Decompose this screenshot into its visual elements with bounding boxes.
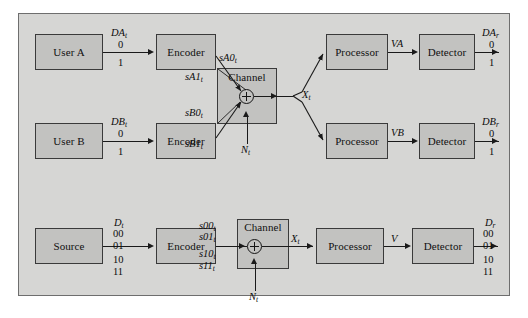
label-da-r: DAr: [482, 27, 499, 38]
label-sb0-text: sB0: [185, 107, 201, 118]
wire-processorb-detectorb: [388, 141, 413, 142]
block-source: Source: [35, 228, 103, 264]
label-s10: s10t: [199, 248, 216, 259]
label-sb1: sB1t: [185, 138, 203, 149]
label-in-b-0: 0: [118, 128, 123, 139]
label-db-r: DBr: [482, 116, 499, 127]
label-d-r-text: D: [485, 217, 493, 228]
label-sa0-sub: t: [235, 56, 237, 65]
label-d-r: Dr: [485, 217, 496, 228]
label-db-t: DBt: [111, 116, 127, 127]
label-d-t-text: D: [114, 217, 122, 228]
label-out-b-1: 1: [489, 146, 494, 157]
label-s01-text: s01: [199, 231, 214, 242]
label-x-t-top-sub: t: [308, 93, 310, 102]
label-out-00: 00: [483, 228, 494, 239]
label-da-t-text: DA: [111, 27, 125, 38]
label-da-r-sub: r: [496, 31, 499, 40]
arrowhead-userb-encoderb: [148, 138, 154, 144]
arrowhead-noise-bottom: [251, 258, 257, 264]
label-out-a-1: 1: [489, 57, 494, 68]
label-in-10: 10: [113, 254, 124, 265]
label-sa1-sub: t: [201, 75, 203, 84]
label-out-a-0: 0: [489, 39, 494, 50]
label-s00-text: s00: [199, 220, 214, 231]
label-sb1-text: sB1: [185, 138, 201, 149]
block-detector-a: Detector: [419, 34, 475, 70]
label-sa0: sA0t: [219, 52, 237, 63]
block-processor-b: Processor: [326, 123, 388, 159]
label-d-t: Dt: [114, 217, 124, 228]
label-sa0-text: sA0: [219, 52, 235, 63]
label-noise-top: Nt: [241, 144, 250, 155]
label-noise-bottom-text: N: [249, 291, 256, 302]
block-detector-b: Detector: [419, 123, 475, 159]
block-processor-a: Processor: [326, 34, 388, 70]
arrowhead-noise-top: [243, 111, 249, 117]
block-channel-bottom-label: Channel: [244, 221, 281, 233]
label-s01-sub: t: [214, 235, 216, 244]
wire-noise-top: [247, 117, 248, 144]
wire-processor-detector-bottom: [384, 246, 406, 247]
block-source-label: Source: [53, 240, 84, 252]
arrowhead-processorb-detectorb: [412, 138, 418, 144]
label-vb: VB: [391, 127, 404, 138]
label-x-t-bottom: Xt: [291, 233, 300, 244]
label-noise-top-sub: t: [248, 148, 250, 157]
label-noise-bottom-sub: t: [256, 295, 258, 304]
arrowhead-channel-out-bottom: [307, 243, 313, 249]
block-encoder-a-label: Encoder: [167, 46, 204, 58]
label-va: VA: [391, 38, 403, 49]
label-out-10: 10: [483, 254, 494, 265]
label-s11: s11t: [199, 260, 215, 271]
label-x-t-top: Xt: [302, 89, 311, 100]
label-s01: s01t: [199, 231, 216, 242]
label-in-a-0: 0: [118, 39, 123, 50]
block-encoder-a: Encoder: [156, 34, 216, 70]
wire-noise-bottom: [255, 264, 256, 291]
label-s00: s00t: [199, 220, 216, 231]
label-in-11: 11: [113, 266, 123, 277]
label-noise-bottom: Nt: [249, 291, 258, 302]
label-da-r-text: DA: [482, 27, 496, 38]
label-sb1-sub: t: [201, 142, 203, 151]
block-user-b-label: User B: [53, 135, 84, 147]
label-out-b-0: 0: [489, 128, 494, 139]
adder-icon-top: [239, 89, 254, 104]
wire-source-encoder: [103, 246, 149, 247]
label-v: V: [391, 233, 397, 244]
label-da-t-sub: t: [125, 31, 127, 40]
label-noise-top-text: N: [241, 144, 248, 155]
block-processor-b-label: Processor: [335, 135, 379, 147]
wire-processora-detectora: [388, 52, 413, 53]
block-channel-top-label: Channel: [228, 71, 265, 83]
label-s11-text: s11: [199, 260, 213, 271]
block-processor-bottom-label: Processor: [328, 240, 372, 252]
label-da-t: DAt: [111, 27, 127, 38]
arrowhead-channel-out-top: [271, 93, 277, 99]
arrowhead-source-encoder: [148, 243, 154, 249]
label-sa1: sA1t: [185, 71, 203, 82]
label-s11-sub: t: [213, 264, 215, 273]
label-db-t-text: DB: [111, 116, 125, 127]
arrowhead-usera-encodera: [148, 49, 154, 55]
adder-icon-bottom: [247, 239, 262, 254]
label-sb0: sB0t: [185, 107, 203, 118]
block-processor-bottom: Processor: [316, 228, 384, 264]
label-db-r-sub: r: [496, 120, 499, 129]
label-db-r-text: DB: [482, 116, 496, 127]
block-user-a: User A: [35, 34, 103, 70]
arrowhead-encoder-channel-bottom: [239, 243, 245, 249]
block-user-a-label: User A: [53, 46, 84, 58]
block-detector-bottom-label: Detector: [424, 240, 463, 252]
label-x-t-bottom-sub: t: [297, 237, 299, 246]
label-s10-text: s10: [199, 248, 214, 259]
block-detector-b-label: Detector: [428, 135, 467, 147]
wire-usera-encodera: [103, 52, 149, 53]
label-sb0-sub: t: [201, 111, 203, 120]
wire-adder-out-bottom: [262, 246, 313, 247]
label-in-00: 00: [113, 228, 124, 239]
label-in-b-1: 1: [118, 146, 123, 157]
label-out-11: 11: [483, 266, 493, 277]
block-detector-a-label: Detector: [428, 46, 467, 58]
